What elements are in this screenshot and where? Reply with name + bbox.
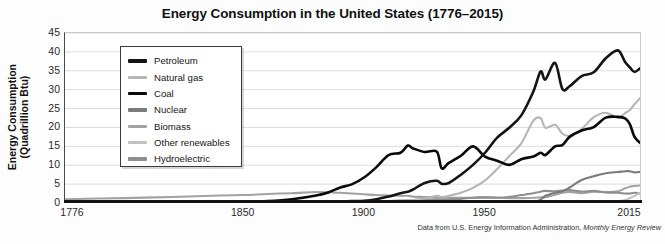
legend-swatch-icon	[128, 157, 147, 160]
legend-swatch-icon	[128, 76, 147, 79]
legend-swatch-icon	[128, 108, 147, 111]
energy-consumption-chart: Energy Consumption in the United States …	[0, 0, 665, 244]
legend-item[interactable]: Hydroelectric	[128, 151, 241, 167]
legend-item-label: Petroleum	[154, 56, 198, 66]
y-axis-label-line2: (Quadrillion Btu)	[18, 76, 30, 159]
y-tick-label: 30	[34, 83, 60, 95]
caption-italic-title: Monthly Energy Review	[583, 223, 661, 232]
y-tick-label: 40	[34, 45, 60, 57]
legend-swatch-icon	[128, 141, 147, 144]
y-tick-label: 5	[34, 177, 60, 189]
x-axis-baseline	[64, 200, 642, 203]
y-tick-label: 0	[34, 196, 60, 208]
x-tick-label: 1950	[472, 206, 495, 218]
legend-item[interactable]: Petroleum	[128, 53, 241, 69]
y-axis-label-line1: Energy Consumption	[6, 64, 18, 170]
legend-item-label: Coal	[154, 89, 174, 99]
legend-item[interactable]: Coal	[128, 86, 241, 102]
x-tick-label: 1776	[60, 206, 83, 218]
y-tick-label: 10	[34, 158, 60, 170]
y-tick-label: 15	[34, 139, 60, 151]
legend-item[interactable]: Biomass	[128, 118, 241, 134]
x-tick-label: 2015	[617, 206, 640, 218]
legend-item[interactable]: Natural gas	[128, 69, 241, 85]
legend-swatch-icon	[128, 59, 147, 62]
chart-legend: PetroleumNatural gasCoalNuclearBiomassOt…	[120, 46, 242, 167]
caption-prefix: Data from U.S. Energy Information Admini…	[417, 223, 583, 232]
y-tick-label: 45	[34, 26, 60, 38]
legend-swatch-icon	[128, 125, 147, 128]
legend-swatch-icon	[128, 92, 147, 95]
x-tick-label: 1900	[352, 206, 375, 218]
legend-item[interactable]: Nuclear	[128, 102, 241, 118]
legend-item-label: Natural gas	[154, 73, 203, 83]
y-tick-label: 25	[34, 102, 60, 114]
legend-item-label: Other renewables	[154, 138, 230, 148]
legend-item-label: Hydroelectric	[154, 154, 210, 164]
y-tick-label: 20	[34, 120, 60, 132]
y-tick-label: 35	[34, 64, 60, 76]
y-axis-label: Energy Consumption (Quadrillion Btu)	[4, 32, 32, 202]
legend-item-label: Nuclear	[154, 105, 187, 115]
y-axis-ticks: 454035302520151050	[32, 0, 60, 244]
legend-item-label: Biomass	[154, 122, 191, 132]
legend-item[interactable]: Other renewables	[128, 134, 241, 150]
x-tick-label: 1850	[231, 206, 254, 218]
source-caption: Data from U.S. Energy Information Admini…	[417, 223, 661, 232]
chart-title: Energy Consumption in the United States …	[0, 6, 665, 21]
